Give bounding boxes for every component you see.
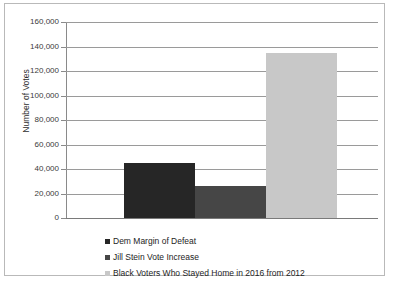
y-tick-label-160000: 160,000 — [7, 18, 59, 26]
y-tick-label-0: 0 — [7, 214, 59, 222]
y-axis-tick-labels: 160,000140,000120,000100,00080,00060,000… — [5, 4, 59, 290]
legend-swatch-icon — [105, 271, 110, 276]
legend-item-label: Black Voters Who Stayed Home in 2016 fro… — [113, 269, 305, 278]
y-tick-label-60000: 60,000 — [7, 141, 59, 149]
plot-area — [66, 22, 378, 218]
y-axis-title: Number of Votes — [21, 56, 31, 146]
legend-item-label: Jill Stein Vote Increase — [113, 253, 199, 262]
y-tick-label-20000: 20,000 — [7, 190, 59, 198]
legend-item-3[interactable]: Black Voters Who Stayed Home in 2016 fro… — [105, 266, 375, 281]
y-tick-label-80000: 80,000 — [7, 116, 59, 124]
gridline-0 — [66, 218, 378, 219]
legend-swatch-icon — [105, 239, 110, 244]
bar-3 — [266, 53, 337, 218]
chart-container: 160,000140,000120,000100,00080,00060,000… — [4, 3, 385, 276]
y-tick-label-120000: 120,000 — [7, 67, 59, 75]
bar-2 — [195, 186, 266, 218]
legend-swatch-icon — [105, 255, 110, 260]
y-tick-label-140000: 140,000 — [7, 43, 59, 51]
legend-item-1[interactable]: Dem Margin of Defeat — [105, 234, 375, 249]
bar-series — [66, 22, 378, 218]
y-tick-label-100000: 100,000 — [7, 92, 59, 100]
bar-1 — [124, 163, 195, 218]
legend-item-2[interactable]: Jill Stein Vote Increase — [105, 250, 375, 265]
y-tick-label-40000: 40,000 — [7, 165, 59, 173]
chart-legend: Dem Margin of DefeatJill Stein Vote Incr… — [105, 234, 375, 282]
legend-item-label: Dem Margin of Defeat — [113, 237, 196, 246]
